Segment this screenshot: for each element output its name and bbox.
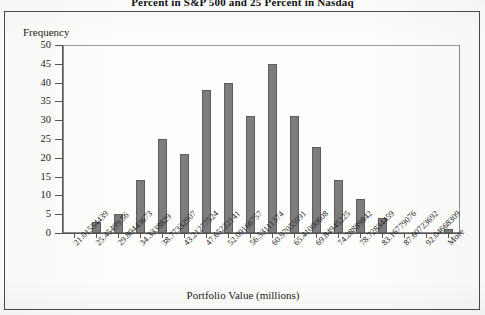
bar bbox=[268, 64, 277, 233]
y-tick-mark bbox=[55, 101, 62, 102]
y-tick-mark bbox=[55, 120, 62, 121]
y-tick-label: 15 bbox=[11, 172, 51, 182]
y-tick-mark bbox=[55, 45, 62, 46]
y-tick-mark bbox=[55, 195, 62, 196]
y-tick-label: 10 bbox=[11, 190, 51, 200]
bar-series bbox=[63, 45, 459, 233]
chart-frame: Frequency 05101520253035404550 21.015544… bbox=[4, 11, 480, 310]
document-title: Percent in S&P 500 and 25 Percent in Nas… bbox=[0, 0, 485, 8]
y-tick-label: 25 bbox=[11, 134, 51, 144]
bar bbox=[224, 83, 233, 233]
histogram-chart: Frequency 05101520253035404550 21.015544… bbox=[5, 12, 481, 311]
y-tick-label: 30 bbox=[11, 115, 51, 125]
y-tick-label: 5 bbox=[11, 209, 51, 219]
y-tick-mark bbox=[55, 83, 62, 84]
x-axis-labels: 21.0155443925.45499.5629.8944367334.3338… bbox=[5, 233, 481, 293]
y-tick-mark bbox=[55, 177, 62, 178]
y-tick-label: 20 bbox=[11, 153, 51, 163]
y-tick-mark bbox=[55, 64, 62, 65]
y-tick-label: 50 bbox=[11, 40, 51, 50]
y-tick-label: 35 bbox=[11, 96, 51, 106]
y-tick-mark bbox=[55, 139, 62, 140]
y-tick-mark bbox=[55, 158, 62, 159]
y-axis-title: Frequency bbox=[23, 26, 69, 38]
y-tick-mark bbox=[55, 214, 62, 215]
x-axis-title: Portfolio Value (millions) bbox=[5, 289, 481, 301]
y-tick-label: 40 bbox=[11, 78, 51, 88]
y-tick-label: 45 bbox=[11, 59, 51, 69]
